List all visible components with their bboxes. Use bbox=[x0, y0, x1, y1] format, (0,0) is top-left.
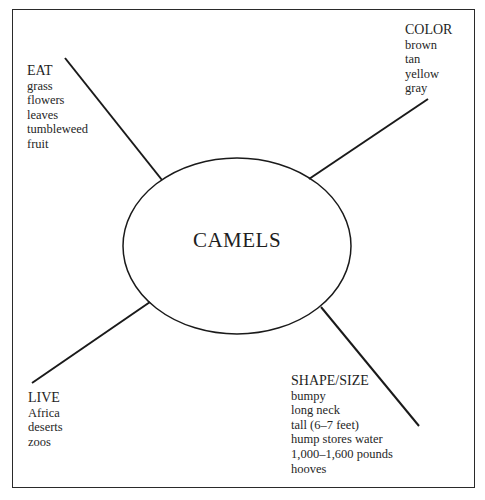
branch-item: tumbleweed bbox=[27, 122, 88, 137]
branch-item: tan bbox=[405, 52, 452, 67]
branch-item: deserts bbox=[28, 420, 63, 435]
branch-item: hooves bbox=[291, 462, 393, 477]
branch-item: leaves bbox=[27, 108, 88, 123]
branch-item: Africa bbox=[28, 406, 63, 421]
branch-heading: LIVE bbox=[28, 391, 63, 406]
connector-color bbox=[309, 99, 428, 179]
branch-item: flowers bbox=[27, 93, 88, 108]
branch-heading: SHAPE/SIZE bbox=[291, 374, 393, 389]
branch-live: LIVE Africa deserts zoos bbox=[28, 391, 63, 449]
branch-item: 1,000–1,600 pounds bbox=[291, 447, 393, 462]
branch-item: bumpy bbox=[291, 389, 393, 404]
branch-item: gray bbox=[405, 81, 452, 96]
connector-live bbox=[32, 302, 150, 383]
branch-heading: COLOR bbox=[405, 23, 452, 38]
branch-eat: EAT grass flowers leaves tumbleweed frui… bbox=[27, 64, 88, 152]
branch-item: fruit bbox=[27, 137, 88, 152]
branch-heading: EAT bbox=[27, 64, 88, 79]
branch-item: zoos bbox=[28, 435, 63, 450]
branch-color: COLOR brown tan yellow gray bbox=[405, 23, 452, 96]
branch-item: long neck bbox=[291, 403, 393, 418]
center-topic-label: CAMELS bbox=[123, 230, 351, 251]
branch-item: hump stores water bbox=[291, 432, 393, 447]
branch-item: tall (6–7 feet) bbox=[291, 418, 393, 433]
branch-item: brown bbox=[405, 38, 452, 53]
branch-item: grass bbox=[27, 79, 88, 94]
branch-item: yellow bbox=[405, 67, 452, 82]
branch-shape-size: SHAPE/SIZE bumpy long neck tall (6–7 fee… bbox=[291, 374, 393, 476]
